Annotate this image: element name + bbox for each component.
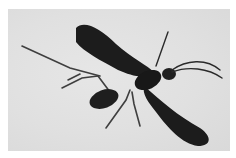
insect-leg [132, 92, 140, 126]
insect-antenna [172, 69, 222, 78]
insect-abdomen [87, 85, 121, 112]
insect-wing-lower [144, 86, 209, 146]
insect-illustration [0, 0, 236, 158]
insect-antenna [156, 32, 168, 66]
insect-wing-upper [76, 25, 154, 77]
insect-leg [62, 76, 98, 88]
insect-head [162, 68, 176, 80]
